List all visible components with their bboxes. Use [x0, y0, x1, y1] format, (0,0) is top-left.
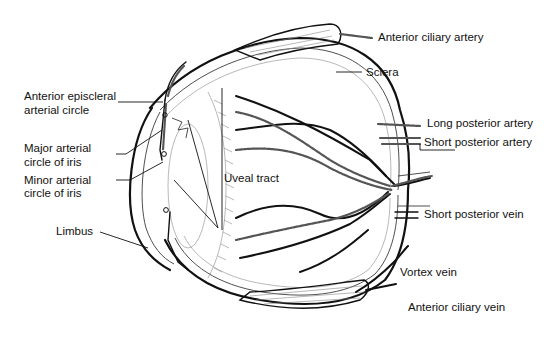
label-minor-arterial-1: Minor arterial [24, 174, 91, 186]
label-major-arterial-1: Major arterial [24, 142, 91, 154]
lens [168, 124, 208, 248]
label-minor-arterial-2: circle of iris [24, 187, 82, 199]
label-long-posterior-artery: Long posterior artery [427, 117, 533, 129]
label-short-posterior-artery: Short posterior artery [424, 136, 532, 148]
label-sclera: Sclera [366, 66, 399, 78]
leader-lines [100, 72, 455, 248]
label-vortex-vein: Vortex vein [400, 266, 457, 278]
labels: Anterior ciliary artery Sclera Long post… [24, 31, 533, 313]
label-limbus: Limbus [56, 225, 93, 237]
label-anterior-ciliary-artery: Anterior ciliary artery [378, 31, 484, 43]
label-anterior-ciliary-vein: Anterior ciliary vein [408, 301, 505, 313]
ciliary-processes [208, 92, 234, 278]
label-anterior-episcleral-2: arterial circle [24, 104, 89, 116]
label-major-arterial-2: circle of iris [24, 156, 82, 168]
diagram-canvas: Anterior ciliary artery Sclera Long post… [0, 0, 552, 349]
label-anterior-episcleral-1: Anterior episcleral [24, 90, 116, 102]
episcleral-vessel [165, 62, 186, 100]
label-short-posterior-vein: Short posterior vein [424, 208, 524, 220]
eye-vasculature-diagram: Anterior ciliary artery Sclera Long post… [0, 0, 552, 349]
label-uveal-tract: Uveal tract [224, 172, 280, 184]
